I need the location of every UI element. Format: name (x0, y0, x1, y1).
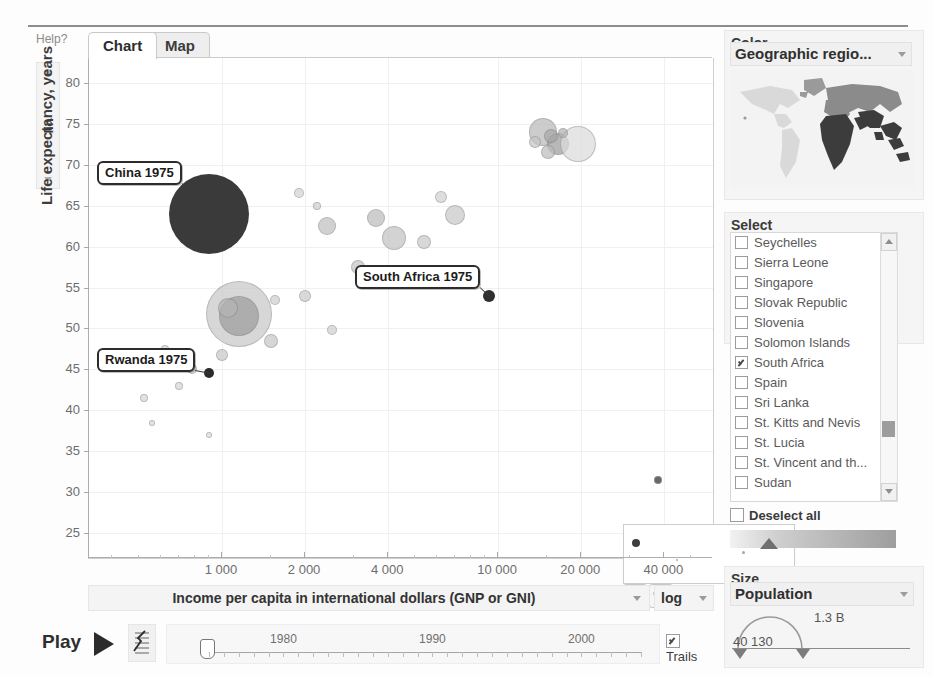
list-item[interactable]: Slovak Republic (731, 293, 881, 313)
opacity-slider-handle[interactable] (760, 538, 778, 549)
callout-label[interactable]: South Africa 1975 (355, 265, 480, 289)
list-item[interactable]: Sudan (731, 473, 881, 493)
bubble[interactable] (529, 136, 541, 148)
opacity-slider[interactable] (730, 530, 896, 548)
checkbox-icon[interactable] (735, 336, 748, 349)
list-item[interactable]: St. Lucia (731, 433, 881, 453)
checkbox-icon[interactable] (735, 376, 748, 389)
checkbox-icon[interactable] (735, 396, 748, 409)
list-item[interactable]: Spain (731, 373, 881, 393)
help-link[interactable]: Help? (36, 32, 67, 46)
checkbox-icon[interactable] (735, 476, 748, 489)
list-item-label: Solomon Islands (754, 335, 850, 350)
checkbox-icon[interactable] (735, 436, 748, 449)
size-range-slider[interactable]: 1.3 B 40 130 (730, 608, 914, 660)
gridline-vertical (664, 58, 665, 558)
speed-control-icon[interactable] (128, 624, 156, 662)
x-indicator-selector[interactable]: Income per capita in international dolla… (88, 585, 650, 611)
list-item[interactable]: Slovenia (731, 313, 881, 333)
list-item[interactable]: South Africa (731, 353, 881, 373)
trails-toggle[interactable]: Trails (666, 634, 712, 664)
play-label[interactable]: Play (42, 631, 81, 653)
chevron-down-icon[interactable] (900, 592, 908, 597)
y-tick-label: 75 (50, 116, 80, 131)
checkbox-icon[interactable] (735, 456, 748, 469)
checkbox-icon[interactable] (730, 508, 744, 522)
bubble[interactable] (264, 334, 278, 348)
bubble[interactable] (435, 191, 447, 203)
bubble[interactable] (541, 145, 555, 159)
bubble[interactable] (206, 432, 212, 438)
list-item[interactable]: St. Kitts and Nevis (731, 413, 881, 433)
list-item[interactable]: Sierra Leone (731, 253, 881, 273)
tab-map[interactable]: Map (150, 32, 210, 59)
scroll-down-button[interactable] (881, 483, 897, 501)
trails-label: Trails (666, 649, 697, 664)
bubble[interactable] (318, 217, 336, 235)
year-slider-track[interactable] (209, 652, 641, 653)
y-tick-mark (84, 410, 89, 411)
list-item[interactable]: Seychelles (731, 233, 881, 253)
bubble[interactable] (654, 476, 662, 484)
bubble[interactable] (270, 295, 280, 305)
world-map-icon[interactable] (730, 70, 914, 188)
bubble[interactable] (544, 129, 558, 143)
y-tick-mark (84, 165, 89, 166)
scroll-up-button[interactable] (881, 233, 897, 251)
tab-chart[interactable]: Chart (88, 32, 157, 59)
checkbox-icon[interactable] (735, 356, 748, 369)
y-tick-label: 25 (50, 525, 80, 540)
checkbox-icon[interactable] (735, 276, 748, 289)
list-item[interactable]: St. Vincent and th... (731, 453, 881, 473)
y-tick-label: 45 (50, 361, 80, 376)
list-item[interactable]: Singapore (731, 273, 881, 293)
chart-canvas[interactable]: China 1975South Africa 1975Rwanda 1975 1… (88, 58, 714, 559)
checkbox-icon[interactable] (735, 296, 748, 309)
bubble[interactable] (140, 394, 148, 402)
callout-label[interactable]: Rwanda 1975 (97, 348, 195, 372)
y-tick-mark (84, 451, 89, 452)
x-tick-mark (387, 552, 388, 558)
play-icon[interactable] (94, 632, 114, 656)
checkbox-icon[interactable] (735, 416, 748, 429)
checkbox-icon[interactable] (735, 316, 748, 329)
bubble[interactable] (367, 209, 385, 227)
color-indicator-selector[interactable]: Geographic regio... (730, 42, 912, 66)
chevron-down-icon[interactable] (633, 596, 641, 601)
scrollbar-thumb[interactable] (882, 421, 895, 437)
list-item[interactable]: Sri Lanka (731, 393, 881, 413)
x-tick-mark (497, 552, 498, 558)
bubble[interactable] (216, 349, 228, 361)
checkbox-icon[interactable] (666, 634, 680, 648)
bubble[interactable] (313, 202, 321, 210)
chevron-down-icon[interactable] (699, 596, 707, 601)
bubble[interactable] (218, 298, 238, 318)
country-list[interactable]: SeychellesSierra LeoneSingaporeSlovak Re… (730, 232, 882, 502)
size-max-handle[interactable] (796, 649, 810, 659)
size-min-handle[interactable] (733, 649, 747, 659)
chevron-down-icon[interactable] (898, 52, 906, 57)
bubble[interactable] (299, 290, 311, 302)
bubble[interactable] (175, 382, 183, 390)
bubble[interactable] (149, 420, 155, 426)
y-tick-label: 70 (50, 157, 80, 172)
country-list-scrollbar[interactable] (880, 232, 898, 502)
checkbox-icon[interactable] (735, 236, 748, 249)
year-slider[interactable]: 198019902000 (166, 624, 660, 664)
plot-area[interactable]: China 1975South Africa 1975Rwanda 1975 (89, 58, 713, 558)
list-item-label: Sri Lanka (754, 395, 809, 410)
callout-label[interactable]: China 1975 (97, 161, 182, 185)
year-slider-handle[interactable] (200, 639, 215, 659)
bubble[interactable] (445, 205, 465, 225)
color-indicator-label: Geographic regio... (735, 43, 872, 65)
bubble[interactable] (327, 325, 337, 335)
checkbox-icon[interactable] (735, 256, 748, 269)
x-axis-line (88, 557, 712, 558)
x-scale-selector[interactable]: log (654, 585, 714, 611)
gridline-vertical (305, 58, 306, 558)
y-tick-mark (84, 369, 89, 370)
bubble[interactable] (294, 188, 304, 198)
deselect-all-toggle[interactable]: Deselect all (730, 506, 896, 526)
size-indicator-selector[interactable]: Population (730, 582, 914, 606)
list-item[interactable]: Solomon Islands (731, 333, 881, 353)
